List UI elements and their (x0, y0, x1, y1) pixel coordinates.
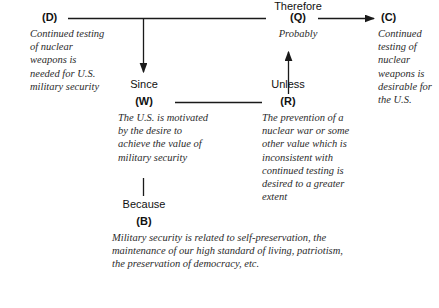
node-q: (Q) Probably (266, 11, 330, 40)
node-b-tag: (B) (113, 215, 175, 227)
connective-since: Since (118, 78, 170, 90)
node-w-text: The U.S. is motivated by the desire to a… (118, 111, 214, 164)
node-q-text: Probably (266, 27, 330, 40)
node-c-tag: (C) (381, 11, 436, 23)
node-w: (W) The U.S. is motivated by the desire … (118, 95, 214, 164)
node-d-tag: (D) (42, 11, 108, 23)
node-b: (B) Military security is related to self… (113, 215, 344, 271)
node-c: (C) Continued testing of nuclear weapons… (378, 11, 436, 106)
node-d-text: Continued testing of nuclear weapons is … (30, 27, 108, 93)
node-r: (R) The prevention of a nuclear war or s… (262, 95, 366, 203)
node-c-text: Continued testing of nuclear weapons is … (378, 27, 436, 106)
node-r-tag: (R) (262, 95, 314, 107)
connective-because: Because (113, 198, 175, 210)
node-d: (D) Continued testing of nuclear weapons… (30, 11, 108, 93)
connective-unless: Unless (262, 78, 314, 90)
node-q-tag: (Q) (266, 11, 330, 23)
node-r-text: The prevention of a nuclear war or some … (262, 111, 366, 203)
node-b-text: Military security is related to self-pre… (112, 231, 344, 271)
node-w-tag: (W) (118, 95, 170, 107)
argument-diagram-canvas: (D) Continued testing of nuclear weapons… (0, 0, 439, 308)
